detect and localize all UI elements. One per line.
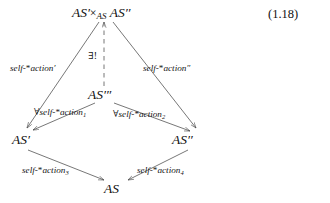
edge-label-self-action-double-prime: self-*action′′ bbox=[143, 64, 190, 73]
node-pullback: AS′×AS AS′′ bbox=[72, 6, 130, 21]
node-as-double-prime-primes: ′′ bbox=[187, 132, 192, 147]
figure-container: AS′×AS AS′′ (1.18) AS′′′ AS′ AS′′ AS sel… bbox=[0, 0, 330, 203]
edge-label-5-base: self- bbox=[22, 165, 38, 175]
node-as-prime-base: AS bbox=[12, 132, 27, 147]
edge-label-4-word: action bbox=[139, 109, 162, 119]
edge-label-3-word: action bbox=[60, 107, 83, 117]
edge-label-4-sub: 2 bbox=[162, 113, 165, 120]
edge-label-0-prime: ′ bbox=[53, 63, 55, 73]
node-as-double-prime: AS′′ bbox=[172, 133, 192, 147]
node-as-triple-prime: AS′′′ bbox=[88, 88, 111, 102]
edge-label-forall-self-action-2: ∀self-*action2 bbox=[113, 110, 165, 120]
edge-label-self-action-4: self-*action4 bbox=[137, 166, 184, 176]
edge-label-self-action-prime: self-*action′ bbox=[10, 64, 55, 73]
edge-label-self-action-3: self-*action3 bbox=[22, 166, 69, 176]
edge-label-5-word: action bbox=[42, 165, 65, 175]
edge-label-forall-self-action-1: ∀self-*action1 bbox=[34, 108, 86, 118]
node-pullback-subscript: AS bbox=[96, 11, 106, 21]
edge-label-0-base: self- bbox=[10, 63, 26, 73]
edge-label-1-word: action bbox=[163, 63, 186, 73]
edge-label-exists-unique: ∃! bbox=[88, 50, 97, 61]
node-pullback-right-base: AS bbox=[110, 5, 125, 20]
edge-label-3-base: self- bbox=[40, 107, 56, 117]
edge-label-4-base: self- bbox=[119, 109, 135, 119]
edge-label-0-word: action bbox=[30, 63, 53, 73]
node-as: AS bbox=[104, 182, 119, 196]
node-as-prime: AS′ bbox=[12, 133, 30, 147]
edge-label-6-base: self- bbox=[137, 165, 153, 175]
node-as-triple-prime-primes: ′′′ bbox=[103, 87, 111, 102]
edge-label-6-word: action bbox=[157, 165, 180, 175]
edge-label-1-base: self- bbox=[143, 63, 159, 73]
edge-label-1-prime: ′′ bbox=[186, 63, 190, 73]
node-as-triple-prime-base: AS bbox=[88, 87, 103, 102]
node-as-double-prime-base: AS bbox=[172, 132, 187, 147]
node-as-base: AS bbox=[104, 181, 119, 196]
edge-label-6-sub: 4 bbox=[180, 169, 183, 176]
node-as-prime-primes: ′ bbox=[27, 132, 30, 147]
edge-label-3-sub: 1 bbox=[83, 111, 86, 118]
node-pullback-left-base: AS bbox=[72, 5, 87, 20]
edge-label-5-sub: 3 bbox=[65, 169, 68, 176]
node-pullback-right-prime: ′′ bbox=[125, 5, 130, 20]
equation-number: (1.18) bbox=[268, 7, 298, 22]
